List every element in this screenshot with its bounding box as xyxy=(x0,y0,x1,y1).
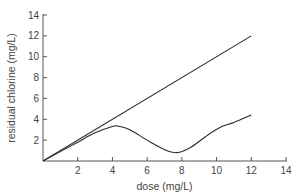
y-axis-ticks: 2468101214 xyxy=(28,10,47,146)
y-tick-label: 14 xyxy=(28,10,40,21)
x-tick-label: 10 xyxy=(211,165,223,176)
x-tick-label: 6 xyxy=(144,165,150,176)
x-tick-label: 2 xyxy=(75,165,81,176)
y-tick-label: 6 xyxy=(33,93,39,104)
y-axis-label: residual chlorine (mg/L) xyxy=(5,33,17,143)
data-series xyxy=(43,36,251,161)
y-tick-label: 10 xyxy=(28,51,40,62)
breakpoint-chlorination-chart: 2468101214 2468101214 dose (mg/L) residu… xyxy=(0,0,303,196)
x-tick-label: 12 xyxy=(246,165,258,176)
y-tick-label: 4 xyxy=(33,114,39,125)
x-tick-label: 8 xyxy=(179,165,185,176)
y-tick-label: 12 xyxy=(28,30,40,41)
reference-line-series xyxy=(43,36,251,161)
x-tick-label: 4 xyxy=(110,165,116,176)
x-axis-label: dose (mg/L) xyxy=(136,180,192,192)
breakpoint-curve-series xyxy=(43,115,251,161)
y-tick-label: 2 xyxy=(33,135,39,146)
x-axis-ticks: 2468101214 xyxy=(75,157,292,176)
x-tick-label: 14 xyxy=(280,165,292,176)
y-tick-label: 8 xyxy=(33,72,39,83)
